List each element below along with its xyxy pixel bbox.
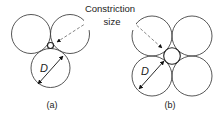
sphere-bottom	[31, 49, 70, 88]
callout-line-1: Constriction	[85, 3, 135, 14]
constriction-circle-b	[164, 48, 181, 65]
constriction-circle-a	[48, 43, 54, 49]
callout: Constriction size	[84, 3, 136, 30]
diameter-label-a: D	[40, 62, 48, 74]
callout-line-2: size	[104, 16, 121, 27]
panel-label-b: (b)	[165, 100, 176, 110]
panel-label-a: (a)	[47, 100, 58, 110]
panel-b: D (b)	[132, 16, 212, 110]
sphere-top-left	[12, 15, 51, 54]
callout-dashed-line-a	[57, 22, 88, 42]
callout-dashed-line-b	[133, 22, 162, 48]
diameter-label-b: D	[141, 65, 149, 77]
constriction-diagram: D (a) D (b) Constriction size	[0, 0, 221, 117]
panel-a: D (a)	[12, 15, 90, 111]
